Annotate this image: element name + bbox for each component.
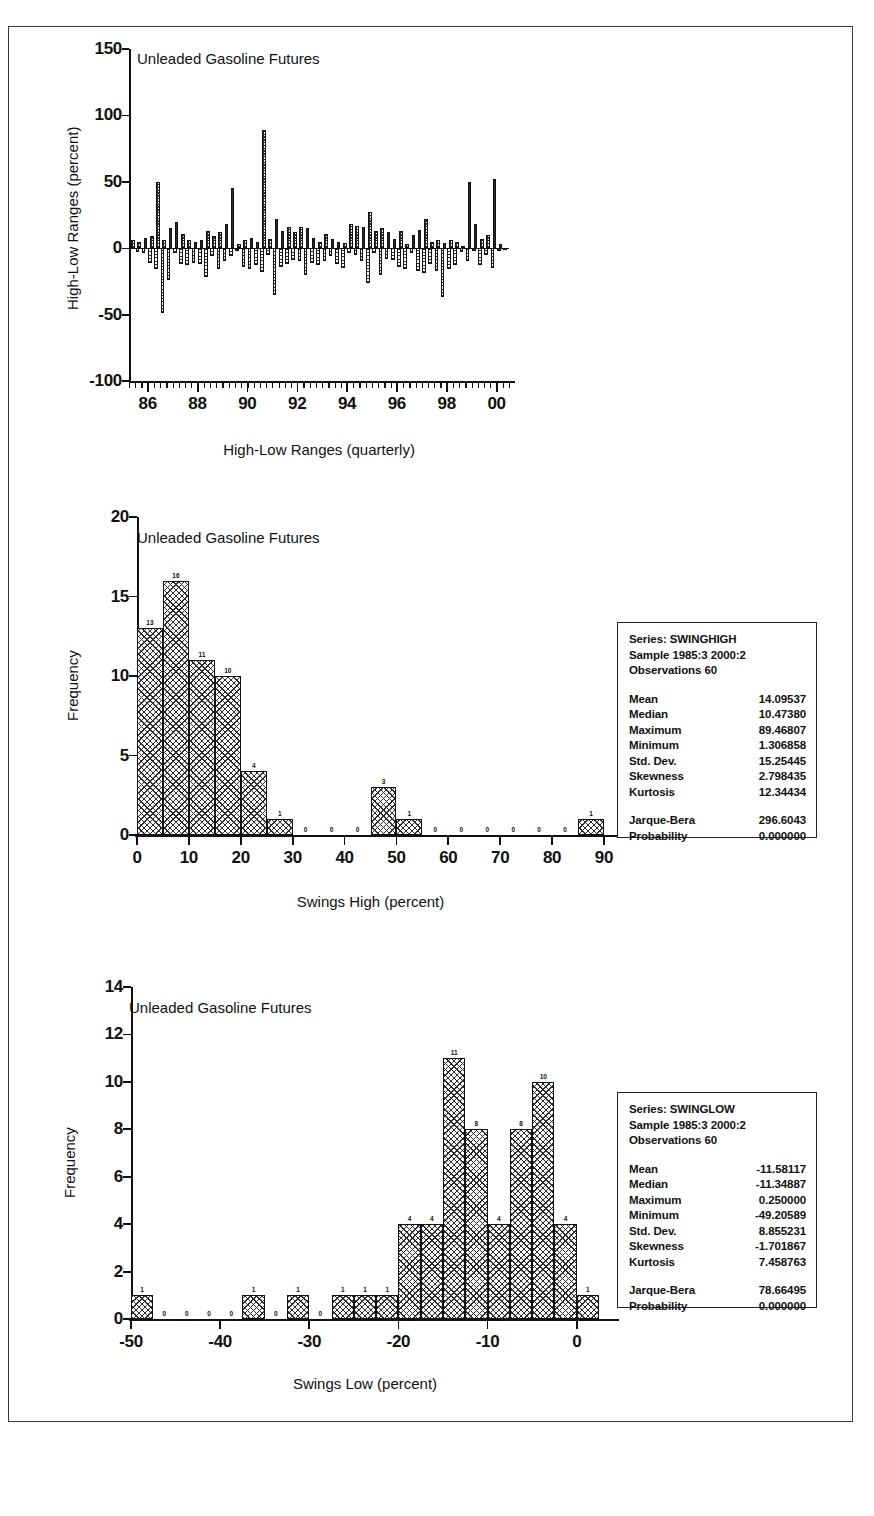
panel3-bar-value-label[interactable]: 11: [443, 1049, 465, 1056]
panel2-bar-value-label[interactable]: 16: [163, 572, 189, 579]
panel1-high-bar[interactable]: [349, 224, 353, 248]
panel1-x-minor-tick[interactable]: [235, 382, 236, 388]
panel1-high-bar[interactable]: [449, 240, 453, 248]
panel2-x-tick[interactable]: [344, 837, 346, 845]
panel1-x-minor-tick[interactable]: [378, 382, 379, 388]
panel1-low-bar[interactable]: [385, 248, 389, 259]
panel1-high-bar[interactable]: [187, 240, 191, 248]
panel3-bar-value-label[interactable]: 4: [421, 1215, 443, 1222]
panel1-low-bar[interactable]: [453, 248, 457, 265]
panel3-histogram-bar[interactable]: [131, 1295, 153, 1319]
panel3-x-tick[interactable]: [576, 1321, 578, 1329]
panel1-high-bar[interactable]: [399, 231, 403, 248]
panel1-low-bar[interactable]: [503, 248, 507, 250]
panel3-histogram-bar[interactable]: [532, 1082, 554, 1319]
panel2-x-tick[interactable]: [188, 837, 190, 845]
panel1-low-bar[interactable]: [242, 248, 246, 267]
panel2-bar-value-label[interactable]: 13: [137, 619, 163, 626]
panel2-bar-value-label[interactable]: 0: [526, 826, 552, 833]
panel1-low-bar[interactable]: [466, 248, 470, 261]
panel2-x-tick-label[interactable]: 0: [113, 849, 161, 866]
panel1-x-minor-tick[interactable]: [328, 382, 329, 388]
panel1-low-bar[interactable]: [403, 248, 407, 269]
panel2-x-tick-label[interactable]: 20: [217, 849, 265, 866]
panel1-x-minor-tick[interactable]: [391, 382, 392, 388]
panel2-x-tick-label[interactable]: 10: [165, 849, 213, 866]
panel1-x-minor-tick[interactable]: [160, 382, 161, 388]
panel1-high-bar[interactable]: [181, 234, 185, 249]
panel1-low-bar[interactable]: [335, 248, 339, 264]
panel1-x-minor-tick[interactable]: [453, 382, 454, 388]
panel3-y-tick[interactable]: [123, 1223, 131, 1225]
panel2-y-tick[interactable]: [129, 675, 137, 677]
panel2-x-tick[interactable]: [603, 837, 605, 845]
panel1-x-minor-tick[interactable]: [185, 382, 186, 388]
panel1-x-tick-label[interactable]: 00: [475, 395, 519, 412]
panel1-y-tick[interactable]: [122, 48, 129, 50]
panel2-bar-value-label[interactable]: 1: [267, 810, 293, 817]
panel1-high-bar[interactable]: [144, 238, 148, 249]
panel3-bar-value-label[interactable]: 10: [532, 1073, 554, 1080]
panel3-y-axis[interactable]: [131, 987, 133, 1319]
panel1-low-bar[interactable]: [379, 248, 383, 275]
panel1-x-minor-tick[interactable]: [322, 382, 323, 388]
panel1-low-bar[interactable]: [266, 248, 270, 255]
panel1-high-bar[interactable]: [237, 244, 241, 248]
panel1-low-bar[interactable]: [460, 248, 464, 252]
panel1-y-tick-label[interactable]: 150: [67, 40, 122, 57]
panel1-x-minor-tick[interactable]: [216, 382, 217, 388]
panel1-x-tick[interactable]: [197, 382, 199, 392]
panel1-low-bar[interactable]: [416, 248, 420, 271]
panel1-low-bar[interactable]: [397, 248, 401, 267]
panel3-bar-value-label[interactable]: 1: [131, 1286, 153, 1293]
panel1-x-minor-tick[interactable]: [472, 382, 473, 388]
panel1-x-minor-tick[interactable]: [359, 382, 360, 388]
panel1-low-bar[interactable]: [273, 248, 277, 294]
panel1-x-minor-tick[interactable]: [210, 382, 211, 388]
panel1-x-minor-tick[interactable]: [372, 382, 373, 388]
panel1-x-minor-tick[interactable]: [141, 382, 142, 388]
panel3-bar-value-label[interactable]: 4: [398, 1215, 420, 1222]
panel2-x-tick[interactable]: [240, 837, 242, 845]
panel1-low-bar[interactable]: [260, 248, 264, 272]
panel1-x-minor-tick[interactable]: [303, 382, 304, 388]
panel1-high-bar[interactable]: [275, 219, 279, 248]
panel1-low-bar[interactable]: [354, 248, 358, 255]
panel1-high-bar[interactable]: [324, 234, 328, 249]
panel3-bar-value-label[interactable]: 0: [265, 1310, 287, 1317]
panel1-low-bar[interactable]: [497, 248, 501, 251]
panel1-low-bar[interactable]: [347, 248, 351, 253]
panel1-high-bar[interactable]: [206, 231, 210, 248]
panel2-x-tick[interactable]: [396, 837, 398, 845]
panel1-high-bar[interactable]: [312, 238, 316, 249]
panel2-bar-value-label[interactable]: 0: [500, 826, 526, 833]
panel1-high-bar[interactable]: [243, 240, 247, 248]
panel2-bar-value-label[interactable]: 4: [241, 762, 267, 769]
panel1-low-bar[interactable]: [428, 248, 432, 264]
panel1-high-bar[interactable]: [374, 231, 378, 248]
panel1-x-minor-tick[interactable]: [254, 382, 255, 388]
panel3-x-tick[interactable]: [487, 1321, 489, 1329]
panel1-x-minor-tick[interactable]: [335, 382, 336, 388]
panel2-y-tick-label[interactable]: 0: [75, 826, 129, 843]
panel1-low-bar[interactable]: [192, 248, 196, 263]
panel3-x-tick-label[interactable]: -50: [105, 1333, 157, 1350]
panel1-x-minor-tick[interactable]: [266, 382, 267, 388]
panel1-low-bar[interactable]: [198, 248, 202, 264]
panel1-high-bar[interactable]: [412, 235, 416, 248]
panel2-x-tick-label[interactable]: 60: [424, 849, 472, 866]
panel1-low-bar[interactable]: [154, 248, 158, 269]
panel1-high-bar[interactable]: [281, 231, 285, 248]
panel1-x-minor-tick[interactable]: [428, 382, 429, 388]
panel1-low-bar[interactable]: [235, 248, 239, 251]
panel3-y-tick[interactable]: [123, 1176, 131, 1178]
panel1-low-bar[interactable]: [298, 248, 302, 261]
panel1-x-tick-label[interactable]: 96: [375, 395, 419, 412]
panel3-bar-value-label[interactable]: 4: [488, 1215, 510, 1222]
panel1-x-minor-tick[interactable]: [129, 382, 130, 388]
panel3-x-tick-label[interactable]: -10: [462, 1333, 514, 1350]
panel1-x-minor-tick[interactable]: [459, 382, 460, 388]
panel2-bar-value-label[interactable]: 1: [578, 810, 604, 817]
panel3-x-tick-label[interactable]: -40: [194, 1333, 246, 1350]
panel1-x-minor-tick[interactable]: [409, 382, 410, 388]
